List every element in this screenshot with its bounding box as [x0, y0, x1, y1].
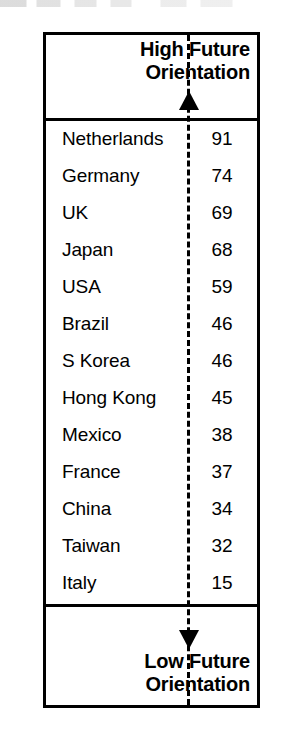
country-label: China	[62, 496, 111, 522]
country-label: Japan	[62, 237, 113, 263]
table-row: Japan 68	[46, 232, 257, 269]
score-value: 69	[194, 200, 250, 226]
table-row: China 34	[46, 491, 257, 528]
score-value: 46	[194, 311, 250, 337]
high-orientation-label-line2: Orientation	[146, 61, 250, 83]
low-orientation-label: Low Future Orientation	[144, 650, 250, 696]
country-label: Hong Kong	[62, 385, 156, 411]
country-label: Italy	[62, 570, 96, 596]
score-value: 37	[194, 459, 250, 485]
table-row: Germany 74	[46, 158, 257, 195]
country-label: France	[62, 459, 121, 485]
score-value: 46	[194, 348, 250, 374]
country-label: S Korea	[62, 348, 130, 374]
table-row: Italy 15	[46, 565, 257, 602]
table-row: Mexico 38	[46, 417, 257, 454]
score-value: 38	[194, 422, 250, 448]
table-row: Hong Kong 45	[46, 380, 257, 417]
score-value: 68	[194, 237, 250, 263]
high-orientation-label: High Future Orientation	[140, 38, 250, 84]
table-row: France 37	[46, 454, 257, 491]
high-orientation-label-line1: High Future	[140, 38, 250, 60]
low-orientation-label-line2: Orientation	[146, 673, 250, 695]
score-value: 59	[194, 274, 250, 300]
country-label: Taiwan	[62, 533, 121, 559]
country-label: Netherlands	[62, 126, 163, 152]
table-row: Brazil 46	[46, 306, 257, 343]
score-value: 45	[194, 385, 250, 411]
score-value: 91	[194, 126, 250, 152]
low-orientation-label-line1: Low Future	[144, 650, 250, 672]
table-row: Taiwan 32	[46, 528, 257, 565]
arrow-up-icon	[179, 91, 199, 110]
future-orientation-diagram: High Future Orientation Netherlands 91 G…	[43, 32, 260, 708]
score-value: 32	[194, 533, 250, 559]
country-score-table: Netherlands 91 Germany 74 UK 69 Japan 68…	[46, 121, 257, 604]
low-orientation-footer: Low Future Orientation	[46, 604, 257, 705]
arrow-down-icon	[179, 630, 199, 649]
score-value: 34	[194, 496, 250, 522]
country-label: Mexico	[62, 422, 122, 448]
score-value: 15	[194, 570, 250, 596]
scan-artifact	[0, 0, 283, 7]
table-row: Netherlands 91	[46, 121, 257, 158]
table-row: USA 59	[46, 269, 257, 306]
country-label: Brazil	[62, 311, 109, 337]
table-row: UK 69	[46, 195, 257, 232]
high-orientation-header: High Future Orientation	[46, 35, 257, 121]
country-label: Germany	[62, 163, 139, 189]
country-label: UK	[62, 200, 88, 226]
table-row: S Korea 46	[46, 343, 257, 380]
score-value: 74	[194, 163, 250, 189]
country-label: USA	[62, 274, 101, 300]
